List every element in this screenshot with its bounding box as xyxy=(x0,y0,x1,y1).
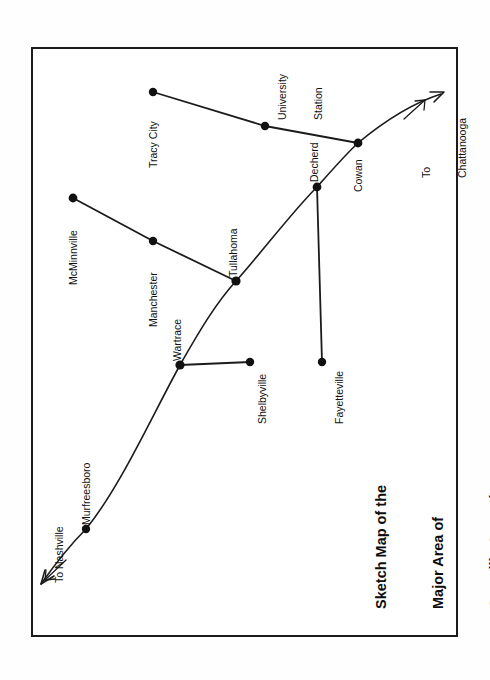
station-label-manchester: Manchester xyxy=(148,272,160,327)
station-label-decherd: Decherd xyxy=(309,142,321,182)
spur-decherd-fayetteville xyxy=(317,187,322,362)
station-dot-tracy-city[interactable] xyxy=(149,88,157,96)
direction-label-to-chattanooga-line1: To xyxy=(420,118,432,178)
station-dot-cowan[interactable] xyxy=(354,139,363,148)
station-label-university-station-line2: Station xyxy=(312,74,324,120)
spur-wartrace-shelbyville xyxy=(180,362,250,365)
station-label-mcminnville: McMinnville xyxy=(68,230,80,285)
station-dot-university-station[interactable] xyxy=(261,122,269,130)
map-title: Sketch Map of the Major Area of Guerrill… xyxy=(334,447,490,609)
station-label-university-station: University Station xyxy=(252,74,348,120)
station-label-wartrace: Wartrace xyxy=(172,319,184,361)
station-label-murfreesboro: Murfreesboro xyxy=(81,463,93,525)
station-dot-murfreesboro[interactable] xyxy=(82,525,90,533)
station-label-tullahoma: Tullahoma xyxy=(228,228,240,277)
station-dot-mcminnville[interactable] xyxy=(69,194,78,203)
map-title-line-2: Major Area of xyxy=(429,447,448,609)
station-dot-tullahoma[interactable] xyxy=(231,276,240,285)
station-label-university-station-line1: University xyxy=(276,74,288,120)
direction-label-to-nashville: To Nashville xyxy=(54,526,66,583)
station-label-tracy-city: Tracy City xyxy=(148,121,160,168)
direction-label-to-chattanooga: To Chattanooga xyxy=(396,118,490,178)
station-dot-decherd[interactable] xyxy=(313,183,322,192)
station-dot-fayetteville[interactable] xyxy=(318,358,326,366)
station-dot-manchester[interactable] xyxy=(149,237,157,245)
station-label-fayetteville: Fayetteville xyxy=(334,371,346,424)
figure-page: Tracy City University Station Cowan Dech… xyxy=(0,0,490,680)
map-title-line-1: Sketch Map of the xyxy=(372,447,391,609)
map-title-line-3: Guerrilla Operations xyxy=(486,447,490,609)
station-dot-wartrace[interactable] xyxy=(175,360,184,369)
station-dot-shelbyville[interactable] xyxy=(246,358,254,366)
direction-label-to-chattanooga-line2: Chattanooga xyxy=(456,118,468,178)
station-label-cowan: Cowan xyxy=(353,159,365,192)
station-label-shelbyville: Shelbyville xyxy=(257,374,269,424)
